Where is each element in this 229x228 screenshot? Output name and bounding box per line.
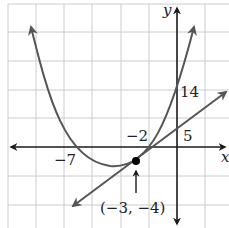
x-axis-label: x xyxy=(221,148,229,166)
x-intercept-right-label: −2 xyxy=(126,127,148,145)
intersection-point xyxy=(132,157,140,165)
graph-canvas: y x −7 −2 14 5 (−3, −4) xyxy=(0,0,229,228)
intersection-point-label: (−3, −4) xyxy=(100,199,165,217)
x-intercept-left-label: −7 xyxy=(54,151,76,169)
y-intercept-line-label: 5 xyxy=(183,127,193,145)
grid xyxy=(8,4,229,228)
y-axis-label: y xyxy=(162,1,172,19)
graph-figure: y x −7 −2 14 5 (−3, −4) xyxy=(0,0,229,228)
y-intercept-parabola-label: 14 xyxy=(180,83,199,101)
parabola-curve xyxy=(31,27,194,166)
